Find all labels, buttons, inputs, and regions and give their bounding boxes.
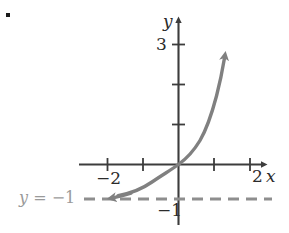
x-axis-label: x: [266, 168, 276, 185]
y-tick-label-neg1: −1: [157, 202, 182, 219]
asymptote-label-y: y: [19, 188, 28, 207]
y-tick-label-3: 3: [156, 36, 167, 53]
asymptote-equation-label: y = −1: [19, 190, 75, 206]
x-tick-label-2: 2: [252, 168, 263, 185]
asymptote-label-equals: =: [28, 188, 52, 207]
x-tick-label-neg2: −2: [96, 170, 121, 187]
y-axis-label: y: [163, 13, 173, 30]
exponential-graph-figure: y x 3 −2 2 −1 y = −1: [0, 0, 289, 233]
exponential-curve: [118, 58, 225, 196]
asymptote-label-value: −1: [52, 188, 76, 207]
